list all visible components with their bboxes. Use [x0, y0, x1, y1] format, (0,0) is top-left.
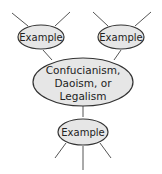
web-diagram: Example Example Confucianism, Daoism, or… — [0, 0, 162, 174]
node-bottom-label: Example — [61, 127, 104, 138]
node-top-right-label: Example — [99, 32, 142, 43]
center-line-2: Daoism, or — [55, 77, 113, 89]
center-node: Confucianism, Daoism, or Legalism — [33, 58, 133, 106]
center-line-3: Legalism — [60, 90, 107, 102]
center-line-1: Confucianism, — [46, 64, 121, 76]
node-top-left-label: Example — [19, 32, 62, 43]
node-bottom: Example — [58, 119, 108, 145]
node-top-right: Example — [98, 25, 144, 49]
node-top-left: Example — [18, 25, 64, 49]
